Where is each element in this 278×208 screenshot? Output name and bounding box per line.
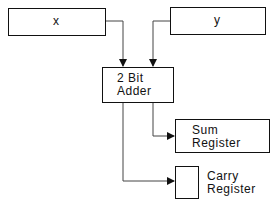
- adder-box: 2 Bit Adder: [102, 67, 174, 103]
- input-x-box: x: [8, 8, 106, 36]
- input-y-box: y: [170, 7, 266, 35]
- edge-x-to-adder: [106, 21, 123, 66]
- edge-adder-to-carry: [123, 102, 174, 181]
- carry-register-label-line2: Register: [207, 183, 256, 196]
- carry-register-box: [175, 166, 199, 199]
- sum-register-box: Sum Register: [175, 119, 270, 153]
- edge-adder-to-sum: [153, 102, 174, 136]
- sum-register-label-line2: Register: [192, 137, 241, 150]
- edge-y-to-adder: [153, 21, 170, 66]
- input-x-label: x: [53, 15, 60, 28]
- input-y-label: y: [214, 14, 221, 27]
- adder-label-line2: Adder: [117, 85, 152, 98]
